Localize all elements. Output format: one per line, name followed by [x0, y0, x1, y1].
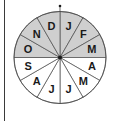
month-label: S: [24, 60, 31, 72]
month-label: M: [79, 75, 88, 87]
month-label: O: [24, 43, 33, 55]
month-label: J: [65, 20, 71, 32]
month-wheel-diagram: JFMAMJJASOND: [0, 0, 114, 121]
month-label: D: [47, 20, 55, 32]
top-pointer-dot: [59, 5, 62, 8]
month-label: N: [33, 28, 41, 40]
center-dot: [58, 56, 62, 60]
month-label: A: [33, 75, 41, 87]
month-label: F: [80, 28, 87, 40]
month-label: A: [88, 60, 96, 72]
month-label: M: [87, 43, 96, 55]
month-label: J: [48, 83, 54, 95]
month-label: J: [65, 83, 71, 95]
